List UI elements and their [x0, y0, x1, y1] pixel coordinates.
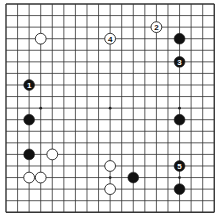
star-point — [178, 176, 181, 179]
black-stone: 1 — [24, 80, 35, 91]
white-stone — [47, 149, 58, 160]
black-stone — [174, 184, 185, 195]
star-point — [109, 176, 112, 179]
move-number-label: 1 — [27, 81, 32, 90]
move-number-label: 3 — [177, 58, 182, 67]
move-number-label: 4 — [108, 35, 113, 44]
black-stone — [128, 172, 139, 183]
black-stone: 5 — [174, 161, 185, 172]
white-stone: 4 — [105, 33, 116, 44]
white-stone — [105, 184, 116, 195]
move-number-label: 2 — [154, 23, 159, 32]
black-stone: 3 — [174, 56, 185, 67]
black-stone — [174, 33, 185, 44]
move-number-label: 5 — [177, 162, 182, 171]
white-stone — [24, 172, 35, 183]
stone-disc — [174, 33, 185, 44]
go-board-diagram: 42315 — [0, 0, 221, 221]
stone-disc — [174, 114, 185, 125]
stone-disc — [35, 33, 46, 44]
stone-disc — [105, 161, 116, 172]
stone-disc — [24, 149, 35, 160]
stone-disc — [128, 172, 139, 183]
white-stone — [105, 161, 116, 172]
black-stone — [24, 149, 35, 160]
star-point — [109, 107, 112, 110]
black-stone — [174, 114, 185, 125]
black-stone — [24, 114, 35, 125]
stone-disc — [105, 184, 116, 195]
white-stone — [35, 33, 46, 44]
white-stone: 2 — [151, 22, 162, 33]
white-stone — [35, 172, 46, 183]
stone-disc — [174, 184, 185, 195]
stone-disc — [47, 149, 58, 160]
star-point — [178, 107, 181, 110]
stone-disc — [24, 172, 35, 183]
stone-disc — [24, 114, 35, 125]
star-point — [39, 107, 42, 110]
stone-disc — [35, 172, 46, 183]
